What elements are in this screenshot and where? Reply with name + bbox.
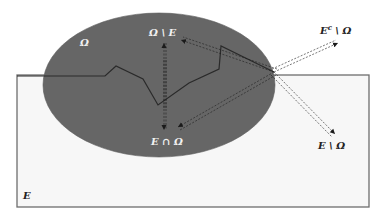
label-e-minus-omega: E \ Ω: [317, 140, 345, 151]
label-e: E: [22, 190, 31, 201]
label-e-intersect-omega: E ∩ Ω: [150, 136, 183, 147]
set-diagram: Ω Ω \ E E ∩ Ω Ec \ Ω E \ Ω E: [0, 0, 387, 217]
label-ec-minus-omega: Ec \ Ω: [319, 23, 352, 36]
label-omega-minus-e: Ω \ E: [148, 27, 177, 38]
label-ec-rest: \ Ω: [332, 25, 352, 36]
label-omega: Ω: [79, 37, 89, 48]
